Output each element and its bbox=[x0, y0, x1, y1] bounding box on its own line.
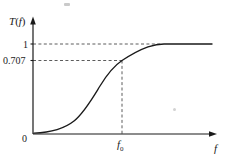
response-curve bbox=[34, 44, 212, 133]
x-axis-label: f bbox=[214, 142, 219, 154]
x-tick-label-subscript: 0 bbox=[120, 145, 124, 153]
y-axis-arrowhead bbox=[30, 17, 36, 25]
y-tick-label-unity: 1 bbox=[23, 39, 28, 50]
x-tick-label-cutoff: f0 bbox=[117, 138, 124, 153]
origin-label: 0 bbox=[22, 133, 27, 144]
figure-container: T(f) f 0 1 0.707 f0 bbox=[0, 0, 232, 158]
scan-artifact-top bbox=[64, 3, 70, 6]
y-axis-label: T(f) bbox=[9, 15, 26, 28]
y-tick-label-cutoff: 0.707 bbox=[3, 55, 26, 66]
scan-artifact-right bbox=[173, 108, 176, 111]
transfer-function-plot: T(f) f 0 1 0.707 f0 bbox=[0, 0, 232, 158]
y-axis-label-close-paren: ) bbox=[22, 15, 26, 28]
x-axis-arrowhead bbox=[209, 131, 217, 137]
